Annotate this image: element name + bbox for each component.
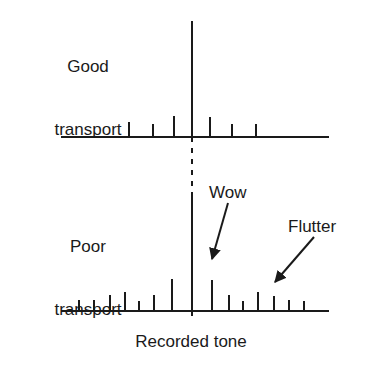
label-poor-line-1: Poor bbox=[14, 236, 162, 257]
label-good-transport: Good transport bbox=[14, 14, 162, 182]
label-poor-line-2: transport bbox=[14, 299, 162, 320]
label-good-line-2: transport bbox=[14, 119, 162, 140]
annotation-label-wow: Wow bbox=[209, 182, 246, 203]
label-good-line-1: Good bbox=[14, 56, 162, 77]
annotation-arrow-group bbox=[212, 203, 314, 282]
annotation-arrow bbox=[275, 237, 314, 282]
axis-caption-recorded-tone: Recorded tone bbox=[98, 331, 284, 352]
annotation-label-flutter: Flutter bbox=[288, 216, 336, 237]
annotation-arrow bbox=[212, 203, 228, 259]
wow-flutter-figure: Good transport Poor transport Wow Flutte… bbox=[0, 0, 377, 373]
